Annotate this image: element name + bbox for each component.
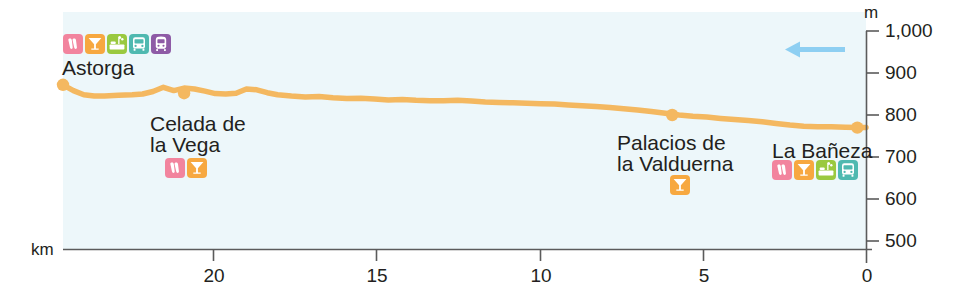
waypoint-dot[interactable] <box>57 79 69 91</box>
y-tick-1000: 1,000 <box>885 20 933 42</box>
bar-cocktail-icon[interactable] <box>670 175 690 195</box>
albergue-bed-icon[interactable] <box>165 158 185 178</box>
y-axis-unit-label: m <box>864 3 878 23</box>
waypoint-dot[interactable] <box>666 109 678 121</box>
place-label-line: Celada de <box>150 113 246 134</box>
hotel-icon[interactable] <box>107 34 127 54</box>
x-tick-10: 10 <box>521 265 561 287</box>
x-tick-20: 20 <box>194 265 234 287</box>
x-axis <box>63 249 872 263</box>
place-icons-palacios-de-la-valduerna <box>670 175 690 195</box>
bar-cocktail-icon[interactable] <box>794 160 814 180</box>
bar-cocktail-icon[interactable] <box>187 158 207 178</box>
albergue-bed-icon[interactable] <box>63 34 83 54</box>
place-label-astorga: Astorga <box>62 57 134 78</box>
place-label-celada-de-la-vega: Celada de la Vega <box>150 113 246 155</box>
y-tick-900: 900 <box>885 62 917 84</box>
place-label-la-baneza: La Bañeza <box>772 140 872 161</box>
place-label-line: Astorga <box>62 57 134 78</box>
place-label-line: Palacios de <box>617 132 733 153</box>
y-tick-800: 800 <box>885 104 917 126</box>
hotel-icon[interactable] <box>816 160 836 180</box>
direction-arrow-icon <box>785 42 845 58</box>
place-icons-astorga <box>63 34 171 54</box>
bus-icon[interactable] <box>129 34 149 54</box>
x-tick-15: 15 <box>357 265 397 287</box>
x-tick-5: 5 <box>684 265 724 287</box>
place-label-line: la Valduerna <box>617 153 733 174</box>
y-tick-600: 600 <box>885 188 917 210</box>
albergue-bed-icon[interactable] <box>772 160 792 180</box>
y-tick-700: 700 <box>885 146 917 168</box>
bar-cocktail-icon[interactable] <box>85 34 105 54</box>
waypoint-dot[interactable] <box>851 121 863 133</box>
place-icons-la-baneza <box>772 160 858 180</box>
train-icon[interactable] <box>151 34 171 54</box>
waypoint-dot[interactable] <box>178 87 190 99</box>
place-label-palacios-de-la-valduerna: Palacios de la Valduerna <box>617 132 733 174</box>
y-tick-500: 500 <box>885 230 917 252</box>
x-axis-unit-label: km <box>31 240 54 260</box>
x-tick-0: 0 <box>847 265 887 287</box>
place-icons-celada-de-la-vega <box>165 158 207 178</box>
place-label-line: la Vega <box>150 134 246 155</box>
place-label-line: La Bañeza <box>772 140 872 161</box>
bus-icon[interactable] <box>838 160 858 180</box>
elevation-profile-chart: m 1,000 900 800 700 600 500 km 20 15 10 … <box>0 0 959 303</box>
